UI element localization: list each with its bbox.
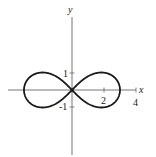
y-tick-label-neg1: -1 [59,101,67,112]
x-tick-label-2: 2 [101,95,106,106]
x-tick-label-4: 4 [133,97,138,108]
y-tick-label-1: 1 [63,68,68,79]
lemniscate-plot: y x 1 -1 2 4 [0,0,156,157]
origin-point [70,88,73,91]
y-axis-label: y [67,4,73,15]
x-axis-label: x [138,84,144,95]
